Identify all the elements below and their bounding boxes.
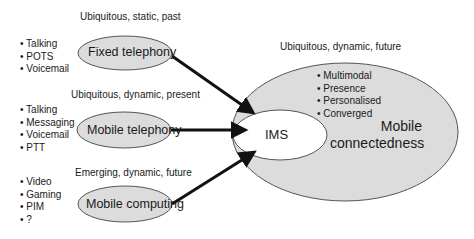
arrow-mobile-computing-to-ims bbox=[172, 153, 253, 204]
caption-fixed: Ubiquitous, static, past bbox=[80, 11, 181, 22]
bullets-fixed: • Talking • POTS • Voicemail bbox=[20, 38, 69, 76]
title-line-1: Mobile bbox=[330, 118, 422, 135]
node-mobile-computing: Mobile computing bbox=[86, 197, 184, 211]
bullets-target: • Multimodal • Presence • Personalised •… bbox=[317, 70, 381, 120]
bullet-item: • Voicemail bbox=[20, 129, 75, 142]
title-line-2: connectedness bbox=[330, 135, 422, 152]
bullet-item: • Multimodal bbox=[317, 70, 381, 83]
arrow-fixed-to-ims bbox=[172, 56, 252, 112]
bullet-item: • PTT bbox=[20, 142, 75, 155]
caption-target: Ubiquitous, dynamic, future bbox=[280, 41, 401, 52]
caption-mobile-computing: Emerging, dynamic, future bbox=[75, 167, 192, 178]
bullets-mobile-telephony: • Talking • Messaging • Voicemail • PTT bbox=[20, 104, 75, 154]
bullet-item: • PIM bbox=[20, 201, 61, 214]
bullet-item: • ? bbox=[20, 214, 61, 227]
bullet-item: • Messaging bbox=[20, 117, 75, 130]
node-fixed-telephony: Fixed telephony bbox=[88, 45, 176, 59]
bullet-item: • Video bbox=[20, 176, 61, 189]
node-mobile-connectedness: Mobile connectedness bbox=[330, 118, 422, 152]
bullet-item: • Presence bbox=[317, 83, 381, 96]
bullets-mobile-computing: • Video • Gaming • PIM • ? bbox=[20, 176, 61, 226]
bullet-item: • Personalised bbox=[317, 95, 381, 108]
bullet-item: • Talking bbox=[20, 104, 75, 117]
bullet-item: • POTS bbox=[20, 51, 69, 64]
bullet-item: • Voicemail bbox=[20, 63, 69, 76]
caption-mobile-telephony: Ubiquitous, dynamic, present bbox=[71, 89, 200, 100]
bullet-item: • Gaming bbox=[20, 189, 61, 202]
bullet-item: • Talking bbox=[20, 38, 69, 51]
node-mobile-telephony: Mobile telephony bbox=[87, 123, 182, 137]
node-ims: IMS bbox=[265, 127, 288, 142]
